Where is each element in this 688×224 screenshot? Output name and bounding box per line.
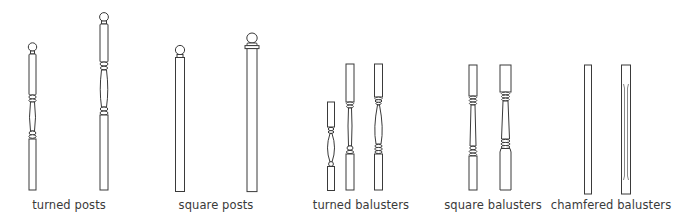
label-square-balusters: square balusters bbox=[444, 198, 542, 212]
square-baluster-slim bbox=[469, 65, 477, 190]
chamfered-baluster-plain bbox=[585, 65, 592, 194]
turned-post-tall bbox=[100, 13, 109, 190]
label-square-posts: square posts bbox=[179, 198, 254, 212]
chamfered-baluster-stopped bbox=[622, 65, 631, 194]
stair-parts-diagram bbox=[0, 0, 688, 224]
square-post-small-cap bbox=[175, 45, 184, 191]
turned-baluster-short bbox=[328, 102, 335, 191]
turned-post-short bbox=[28, 43, 36, 190]
label-turned-balusters: turned balusters bbox=[313, 198, 409, 212]
square-post-large-cap bbox=[245, 33, 259, 192]
turned-baluster-slim bbox=[346, 64, 354, 190]
turned-baluster-vase bbox=[375, 64, 383, 190]
label-chamfered-balusters: chamfered balusters bbox=[551, 198, 672, 212]
square-baluster-wide bbox=[500, 65, 511, 190]
label-turned-posts: turned posts bbox=[32, 198, 106, 212]
